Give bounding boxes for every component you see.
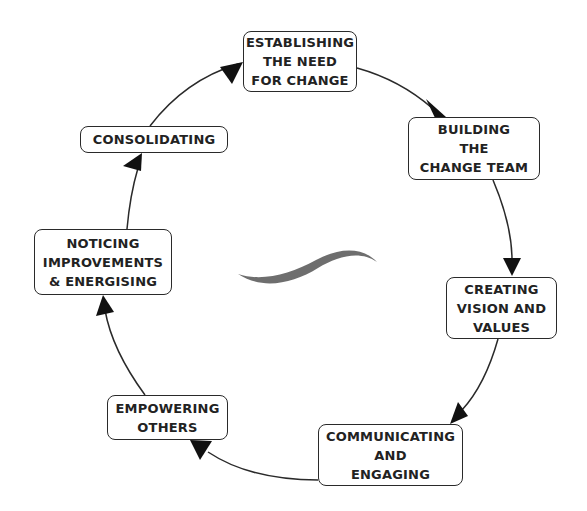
- step-label-line: CREATING: [464, 280, 538, 299]
- step-label-line: AND: [374, 446, 406, 465]
- arrowhead-icon: [503, 258, 521, 276]
- connector-building-creating: [493, 180, 512, 260]
- step-label-line: BUILDING: [438, 120, 510, 139]
- step-label-line: OTHERS: [137, 418, 197, 437]
- step-label-line: IMPROVEMENTS: [43, 253, 163, 272]
- step-building-the-change-team: BUILDING THE CHANGE TEAM: [408, 117, 540, 180]
- step-consolidating: CONSOLIDATING: [80, 126, 228, 153]
- arrowhead-icon: [123, 153, 142, 171]
- connector-noticing-consolidating: [127, 168, 138, 229]
- step-label-line: THE: [459, 139, 488, 158]
- step-label-line: NOTICING: [66, 234, 139, 253]
- arrowhead-icon: [96, 295, 114, 316]
- connector-creating-communicating: [462, 339, 498, 410]
- step-label-line: EMPOWERING: [115, 399, 219, 418]
- step-communicating-and-engaging: COMMUNICATING AND ENGAGING: [318, 424, 463, 486]
- step-label-line: CONSOLIDATING: [93, 130, 216, 149]
- connector-communicating-empowering: [208, 452, 318, 480]
- step-creating-vision-and-values: CREATING VISION AND VALUES: [446, 277, 557, 339]
- arrowhead-icon: [190, 440, 212, 460]
- step-establishing-the-need-for-change: ESTABLISHING THE NEED FOR CHANGE: [243, 31, 357, 92]
- step-label-line: FOR CHANGE: [251, 71, 348, 90]
- step-label-line: VISION AND: [457, 299, 546, 318]
- step-label-line: THE NEED: [263, 52, 337, 71]
- arrowhead-icon: [220, 62, 243, 84]
- step-noticing-improvements-energising: NOTICING IMPROVEMENTS & ENERGISING: [34, 229, 172, 295]
- connector-empowering-noticing: [105, 310, 145, 395]
- step-label-line: CHANGE TEAM: [420, 158, 528, 177]
- swoosh-icon: [238, 251, 377, 284]
- step-empowering-others: EMPOWERING OTHERS: [107, 395, 228, 440]
- step-label-line: ENGAGING: [351, 465, 430, 484]
- step-label-line: COMMUNICATING: [326, 427, 455, 446]
- step-label-line: ESTABLISHING: [246, 33, 354, 52]
- step-label-line: & ENERGISING: [49, 272, 157, 291]
- step-label-line: VALUES: [473, 318, 530, 337]
- connector-establishing-building: [357, 68, 432, 108]
